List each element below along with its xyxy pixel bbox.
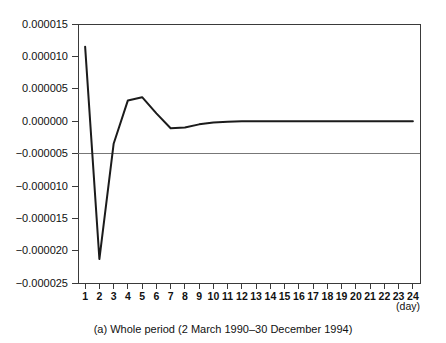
- x-tick-label: 22: [379, 290, 391, 302]
- figure-caption: (a) Whole period (2 March 1990–30 Decemb…: [94, 323, 353, 335]
- x-tick-label: 13: [250, 290, 262, 302]
- y-tick-label: 0.000015: [22, 18, 68, 30]
- x-tick-label: 1: [82, 290, 88, 302]
- y-tick-label: −0.000020: [16, 244, 68, 256]
- x-tick-label: 20: [350, 290, 362, 302]
- y-tick-label: −0.000010: [16, 180, 68, 192]
- x-axis-unit-label: (day): [396, 300, 420, 312]
- x-tick-label: 9: [196, 290, 202, 302]
- x-tick-label: 3: [111, 290, 117, 302]
- y-tick-label: −0.000015: [16, 212, 68, 224]
- x-tick-label: 17: [307, 290, 319, 302]
- x-tick-label: 19: [336, 290, 348, 302]
- x-tick-label: 4: [125, 290, 131, 302]
- y-tick-label: 0.000010: [22, 50, 68, 62]
- x-tick-label: 11: [222, 290, 233, 302]
- x-tick-label: 21: [364, 290, 376, 302]
- x-tick-label: 12: [236, 290, 248, 302]
- impulse-response-chart: 0.000015 0.000010 0.000005 0.000000 −0.0…: [0, 0, 446, 343]
- x-tick-label: 2: [96, 290, 102, 302]
- x-tick-label: 5: [139, 290, 145, 302]
- x-tick-label: 18: [322, 290, 334, 302]
- x-tick-label: 14: [265, 290, 277, 302]
- y-tick-label: 0.000005: [22, 82, 68, 94]
- x-tick-label: 6: [153, 290, 159, 302]
- x-tick-label: 16: [293, 290, 305, 302]
- y-tick-label: 0.000000: [22, 115, 68, 127]
- x-tick-label: 15: [279, 290, 291, 302]
- x-tick-label: 7: [168, 290, 174, 302]
- x-tick-label: 8: [182, 290, 188, 302]
- y-tick-label: −0.000005: [16, 147, 68, 159]
- x-tick-label: 10: [208, 290, 220, 302]
- y-tick-label: −0.000025: [16, 277, 68, 289]
